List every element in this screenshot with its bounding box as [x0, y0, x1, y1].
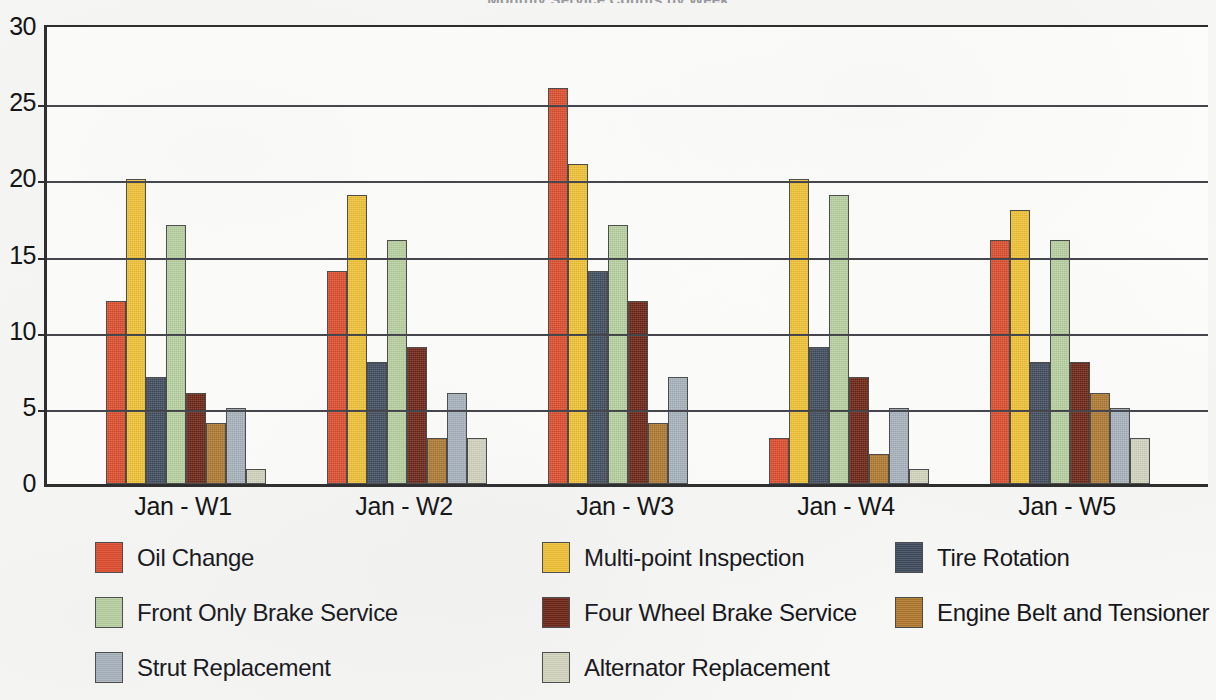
legend-item[interactable]: Strut Replacement [95, 652, 542, 683]
bar[interactable] [1010, 210, 1030, 484]
bar[interactable] [628, 301, 648, 484]
legend-item[interactable]: Four Wheel Brake Service [542, 597, 895, 628]
gridline [47, 105, 1208, 107]
x-tick-label: Jan - W4 [756, 492, 936, 520]
x-tick-label: Jan - W5 [977, 492, 1157, 520]
bar[interactable] [447, 393, 467, 484]
gridline [47, 334, 1208, 336]
legend-label: Strut Replacement [137, 655, 331, 681]
y-tick-label: 0 [0, 471, 36, 496]
legend-item[interactable]: Front Only Brake Service [95, 597, 542, 628]
legend-label: Engine Belt and Tensioner [937, 600, 1209, 626]
chart-legend: Oil ChangeMulti-point InspectionTire Rot… [95, 530, 1185, 695]
x-tick-label: Jan - W3 [535, 492, 715, 520]
bar[interactable] [347, 195, 367, 484]
x-tick-label: Jan - W2 [314, 492, 494, 520]
y-tick-mark [38, 181, 47, 183]
bar-groups-layer [47, 27, 1208, 484]
legend-item[interactable]: Multi-point Inspection [542, 542, 895, 573]
legend-label: Tire Rotation [937, 545, 1070, 571]
legend-color-swatch [95, 652, 123, 683]
legend-row: Front Only Brake ServiceFour Wheel Brake… [95, 585, 1185, 640]
bar[interactable] [467, 438, 487, 484]
plot-area [44, 25, 1208, 487]
bar-group [990, 27, 1150, 484]
bar[interactable] [186, 393, 206, 484]
bar[interactable] [226, 408, 246, 484]
bar[interactable] [1130, 438, 1150, 484]
bar[interactable] [166, 225, 186, 484]
bar[interactable] [769, 438, 789, 484]
legend-color-swatch [95, 542, 123, 573]
bar[interactable] [427, 438, 447, 484]
bar[interactable] [1110, 408, 1130, 484]
y-tick-mark [38, 334, 47, 336]
bar[interactable] [387, 240, 407, 484]
legend-color-swatch [542, 597, 570, 628]
bar[interactable] [1050, 240, 1070, 484]
bar[interactable] [869, 454, 889, 484]
y-tick-mark [38, 105, 47, 107]
y-tick-label: 10 [0, 319, 36, 344]
legend-label: Front Only Brake Service [137, 600, 398, 626]
legend-color-swatch [95, 597, 123, 628]
bar[interactable] [126, 179, 146, 484]
bar[interactable] [990, 240, 1010, 484]
bar[interactable] [829, 195, 849, 484]
bar-group [327, 27, 487, 484]
bar[interactable] [367, 362, 387, 484]
legend-label: Multi-point Inspection [584, 545, 804, 571]
legend-item[interactable]: Alternator Replacement [542, 652, 895, 683]
legend-label: Oil Change [137, 545, 254, 571]
y-tick-label: 30 [0, 14, 36, 39]
bar[interactable] [809, 347, 829, 484]
bar[interactable] [588, 271, 608, 484]
gridline [47, 258, 1208, 260]
legend-item[interactable]: Oil Change [95, 542, 542, 573]
y-tick-mark [38, 410, 47, 412]
x-tick-label: Jan - W1 [93, 492, 273, 520]
bar[interactable] [146, 377, 166, 484]
bar[interactable] [648, 423, 668, 484]
legend-color-swatch [542, 542, 570, 573]
gridline [47, 410, 1208, 412]
legend-color-swatch [542, 652, 570, 683]
bar-chart: Monthly Service Counts by Week 051015202… [0, 0, 1216, 700]
y-tick-label: 20 [0, 166, 36, 191]
bar[interactable] [909, 469, 929, 484]
legend-row: Strut ReplacementAlternator Replacement [95, 640, 1185, 695]
bar[interactable] [407, 347, 427, 484]
bar[interactable] [1070, 362, 1090, 484]
bar-group [106, 27, 266, 484]
y-tick-label: 15 [0, 243, 36, 268]
legend-label: Alternator Replacement [584, 655, 830, 681]
chart-title: Monthly Service Counts by Week [0, 0, 1216, 3]
gridline [47, 181, 1208, 183]
y-tick-label: 5 [0, 395, 36, 420]
bar-group [769, 27, 929, 484]
legend-item[interactable]: Engine Belt and Tensioner [895, 597, 1185, 628]
bar[interactable] [568, 164, 588, 484]
y-tick-mark [38, 258, 47, 260]
legend-row: Oil ChangeMulti-point InspectionTire Rot… [95, 530, 1185, 585]
bar[interactable] [1030, 362, 1050, 484]
bar[interactable] [668, 377, 688, 484]
y-tick-label: 25 [0, 90, 36, 115]
bar[interactable] [889, 408, 909, 484]
bar[interactable] [246, 469, 266, 484]
legend-color-swatch [895, 597, 923, 628]
bar[interactable] [849, 377, 869, 484]
legend-item[interactable]: Tire Rotation [895, 542, 1185, 573]
bar[interactable] [548, 88, 568, 484]
bar[interactable] [106, 301, 126, 484]
bar[interactable] [608, 225, 628, 484]
bar[interactable] [1090, 393, 1110, 484]
legend-color-swatch [895, 542, 923, 573]
bar[interactable] [206, 423, 226, 484]
bar-group [548, 27, 708, 484]
legend-label: Four Wheel Brake Service [584, 600, 857, 626]
bar[interactable] [327, 271, 347, 484]
bar[interactable] [789, 179, 809, 484]
